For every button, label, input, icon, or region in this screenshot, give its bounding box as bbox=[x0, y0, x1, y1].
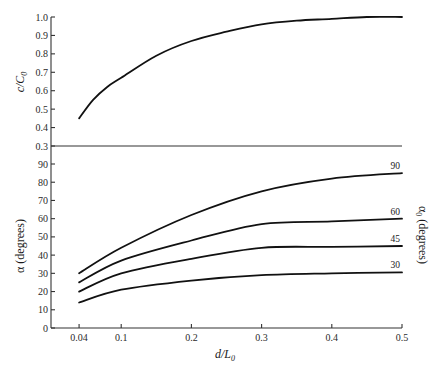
lower-y-tick-label: 40 bbox=[38, 250, 48, 261]
wave-angle-curves: 90604530 bbox=[79, 161, 402, 302]
chart: 1.00.90.80.70.60.50.40.3 c/C0 9080706050… bbox=[0, 0, 440, 365]
x-tick-label: 0.04 bbox=[70, 332, 88, 343]
lower-y-tick-label: 20 bbox=[38, 286, 48, 297]
upper-y-tick-label: 0.7 bbox=[36, 67, 49, 78]
lower-y-tick-label: 90 bbox=[38, 159, 48, 170]
upper-y-tick-label: 0.3 bbox=[36, 141, 49, 152]
lower-y-tick-label: 80 bbox=[38, 177, 48, 188]
upper-y-tick-label: 1.0 bbox=[36, 12, 49, 23]
x-tick-label: 0.4 bbox=[326, 332, 339, 343]
x-tick-label: 0.2 bbox=[185, 332, 198, 343]
lower-y-axis-label: α (degrees) bbox=[13, 219, 27, 273]
celerity-ratio-curve bbox=[79, 17, 402, 119]
upper-panel: 1.00.90.80.70.60.50.40.3 c/C0 bbox=[13, 12, 402, 152]
upper-y-tick-label: 0.5 bbox=[36, 104, 49, 115]
lower-y-tick-label: 10 bbox=[38, 304, 48, 315]
right-y-axis-label: α0 (degrees) bbox=[414, 206, 430, 264]
upper-y-axis-label: c/C0 bbox=[13, 72, 29, 93]
x-tick-label: 0.5 bbox=[396, 332, 409, 343]
curve-label-30: 30 bbox=[391, 260, 401, 270]
x-tick-label: 0.1 bbox=[115, 332, 128, 343]
alpha-curve-45 bbox=[79, 246, 402, 292]
lower-y-ticks: 9080706050403020100 bbox=[38, 159, 55, 334]
lower-y-tick-label: 50 bbox=[38, 231, 48, 242]
lower-panel: 9080706050403020100 0.040.10.20.30.40.5 … bbox=[13, 146, 430, 363]
x-ticks: 0.040.10.20.30.40.5 bbox=[70, 324, 408, 343]
upper-y-tick-label: 0.6 bbox=[36, 85, 49, 96]
curve-label-60: 60 bbox=[391, 207, 401, 217]
curve-label-90: 90 bbox=[391, 161, 401, 171]
lower-y-tick-label: 30 bbox=[38, 268, 48, 279]
lower-y-tick-label: 60 bbox=[38, 213, 48, 224]
lower-y-tick-label: 0 bbox=[43, 323, 48, 334]
upper-y-tick-label: 0.8 bbox=[36, 48, 49, 59]
upper-y-tick-label: 0.4 bbox=[36, 122, 49, 133]
x-tick-label: 0.3 bbox=[255, 332, 268, 343]
curve-label-45: 45 bbox=[391, 234, 401, 244]
x-axis-label: d/L0 bbox=[215, 347, 235, 363]
upper-y-tick-label: 0.9 bbox=[36, 30, 49, 41]
upper-y-ticks: 1.00.90.80.70.60.50.40.3 bbox=[36, 12, 56, 152]
alpha-curve-30 bbox=[79, 272, 402, 302]
lower-y-tick-label: 70 bbox=[38, 195, 48, 206]
